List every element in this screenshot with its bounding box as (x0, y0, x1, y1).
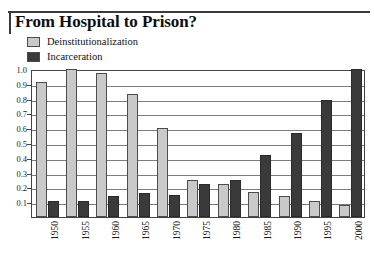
bar-1950-deinstitutionalization (36, 82, 47, 217)
y-tick-label: 0.2 (16, 183, 27, 193)
bar-1960-deinstitutionalization (96, 73, 107, 217)
bar-group-2000 (336, 71, 366, 217)
bar-1960-incarceration (108, 196, 119, 217)
bar-group-1960 (93, 71, 123, 217)
bar-group-1975 (184, 71, 214, 217)
title-left-rule (9, 12, 11, 34)
y-tick-label: 0.1 (16, 198, 27, 208)
bar-group-1965 (123, 71, 153, 217)
bar-group-1955 (62, 71, 92, 217)
x-tick-label-1995: 1995 (323, 221, 333, 240)
legend-label-incarceration: Incarceration (47, 51, 102, 62)
bar-1950-incarceration (48, 201, 59, 217)
bar-1990-deinstitutionalization (279, 196, 290, 217)
bars-layer (32, 71, 364, 217)
y-tick-label: 0.5 (16, 139, 27, 149)
y-tick-label: 0.6 (16, 124, 27, 134)
y-axis: 0.10.20.30.40.50.60.70.80.91.0 (0, 70, 27, 218)
bar-1995-deinstitutionalization (309, 201, 320, 217)
bar-1970-deinstitutionalization (157, 128, 168, 217)
bar-group-1950 (32, 71, 62, 217)
legend-swatch-incarceration (27, 52, 40, 62)
chart-legend: Deinstitutionalization Incarceration (27, 35, 138, 65)
x-tick-label-1960: 1960 (111, 221, 121, 240)
bar-1965-incarceration (139, 193, 150, 217)
x-tick-label-2000: 2000 (354, 221, 364, 240)
x-axis: 1950195519601965197019751980198519901995… (31, 219, 365, 275)
x-tick-label-1980: 1980 (232, 221, 242, 240)
bar-1980-incarceration (230, 180, 241, 217)
bar-1980-deinstitutionalization (218, 184, 229, 217)
page-title: From Hospital to Prison? (15, 11, 197, 33)
bar-1955-incarceration (78, 201, 89, 217)
y-tick-label: 0.9 (16, 80, 27, 90)
bar-group-1985 (245, 71, 275, 217)
x-tick-label-1955: 1955 (81, 221, 91, 240)
y-tick-label: 0.8 (16, 95, 27, 105)
legend-swatch-deinstitutionalization (27, 37, 40, 47)
bar-1995-incarceration (321, 100, 332, 217)
x-tick-label-1990: 1990 (293, 221, 303, 240)
legend-item-incarceration: Incarceration (27, 50, 138, 63)
x-tick-label-1965: 1965 (141, 221, 151, 240)
bar-1990-incarceration (291, 133, 302, 217)
bar-1985-deinstitutionalization (248, 192, 259, 217)
x-tick-label-1985: 1985 (263, 221, 273, 240)
bar-2000-incarceration (351, 69, 362, 217)
y-tick-label: 1.0 (16, 65, 27, 75)
bar-2000-deinstitutionalization (339, 205, 350, 217)
bar-1965-deinstitutionalization (127, 94, 138, 217)
y-tick-label: 0.3 (16, 169, 27, 179)
bar-group-1970 (153, 71, 183, 217)
x-tick-label-1950: 1950 (50, 221, 60, 240)
y-tick-label: 0.4 (16, 154, 27, 164)
plot-area (31, 70, 365, 218)
bar-1955-deinstitutionalization (66, 69, 77, 217)
x-tick-label-1975: 1975 (202, 221, 212, 240)
bar-group-1980 (214, 71, 244, 217)
bar-group-1990 (275, 71, 305, 217)
legend-label-deinstitutionalization: Deinstitutionalization (47, 36, 138, 47)
bar-group-1995 (305, 71, 335, 217)
bar-1970-incarceration (169, 195, 180, 217)
x-tick-label-1970: 1970 (172, 221, 182, 240)
bar-1975-deinstitutionalization (187, 180, 198, 217)
bar-1975-incarceration (199, 184, 210, 217)
bar-1985-incarceration (260, 155, 271, 217)
y-tick-label: 0.7 (16, 109, 27, 119)
legend-item-deinstitutionalization: Deinstitutionalization (27, 35, 138, 48)
